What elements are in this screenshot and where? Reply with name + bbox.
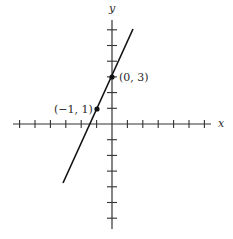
y-axis-label: y [108, 2, 116, 15]
x-axis-label: x [218, 117, 225, 130]
point-neg1-1 [94, 106, 99, 111]
point-0-3 [109, 74, 114, 79]
point-label-0-3: (0, 3) [119, 71, 149, 84]
coordinate-plane: x y (0, 3) (−1, 1) [0, 0, 233, 239]
point-label-neg1-1: (−1, 1) [54, 103, 93, 116]
